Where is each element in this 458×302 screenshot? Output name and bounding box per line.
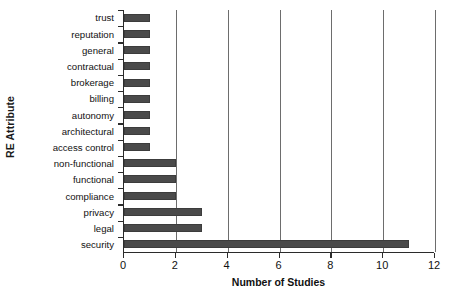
bar-row: [124, 204, 434, 220]
y-axis-tick-label: trust: [18, 10, 118, 26]
y-tick-cell: [117, 107, 123, 123]
y-axis-tick-label: autonomy: [18, 107, 118, 123]
y-axis-tick-labels: trustreputationgeneralcontractualbrokera…: [18, 10, 118, 253]
y-tick-cell: [117, 172, 123, 188]
y-axis-tick-label: reputation: [18, 26, 118, 42]
gridline: [435, 10, 436, 252]
bar-row: [124, 236, 434, 252]
plot-area: [123, 10, 434, 253]
y-tick-cell: [117, 10, 123, 26]
y-tick-cell: [117, 156, 123, 172]
bar-row: [124, 220, 434, 236]
bar-row: [124, 107, 434, 123]
y-axis-tick-label: brokerage: [18, 75, 118, 91]
y-tick-cell: [117, 75, 123, 91]
bar: [124, 208, 202, 216]
bar-row: [124, 10, 434, 26]
bar: [124, 192, 176, 200]
y-axis-tick-label: legal: [18, 221, 118, 237]
y-tick-cell: [117, 91, 123, 107]
bar: [124, 111, 150, 119]
bar-series: [124, 10, 434, 252]
x-tick-mark: [279, 253, 280, 258]
bar-row: [124, 26, 434, 42]
bar: [124, 62, 150, 70]
y-tick-cell: [117, 188, 123, 204]
x-axis-tick-label: 6: [259, 259, 299, 271]
x-tick-mark: [434, 253, 435, 258]
bar: [124, 14, 150, 22]
bar: [124, 95, 150, 103]
x-tick-mark: [227, 253, 228, 258]
bar: [124, 79, 150, 87]
bar: [124, 159, 176, 167]
y-axis-title-text: RE Attribute: [4, 95, 16, 157]
y-axis-tick-label: contractual: [18, 59, 118, 75]
y-tick-mark: [118, 156, 123, 157]
y-axis-tick-label: non-functional: [18, 156, 118, 172]
bar-row: [124, 139, 434, 155]
bar: [124, 46, 150, 54]
y-tick-cell: [117, 42, 123, 58]
y-tick-cell: [117, 237, 123, 253]
x-axis-tick-label: 0: [103, 259, 143, 271]
y-axis-tick-label: privacy: [18, 204, 118, 220]
bar-row: [124, 42, 434, 58]
bar: [124, 143, 150, 151]
y-tick-cell: [117, 123, 123, 139]
y-axis-tick-label: architectural: [18, 123, 118, 139]
bar-row: [124, 58, 434, 74]
y-tick-mark: [118, 42, 123, 43]
x-tick-mark: [382, 253, 383, 258]
y-axis-tick-label: access control: [18, 140, 118, 156]
bar: [124, 224, 202, 232]
y-tick-mark: [118, 237, 123, 238]
x-axis-tick-label: 8: [310, 259, 350, 271]
y-tick-mark: [118, 188, 123, 189]
bar-row: [124, 171, 434, 187]
bar-row: [124, 123, 434, 139]
y-tick-mark: [118, 26, 123, 27]
bar-row: [124, 155, 434, 171]
y-tick-mark: [118, 172, 123, 173]
y-tick-cell: [117, 221, 123, 237]
y-tick-mark: [118, 123, 123, 124]
y-axis-tick-label: compliance: [18, 188, 118, 204]
y-tick-mark: [118, 221, 123, 222]
y-tick-mark: [118, 140, 123, 141]
x-tick-mark: [175, 253, 176, 258]
x-tick-mark: [330, 253, 331, 258]
x-axis-tick-label: 4: [207, 259, 247, 271]
y-tick-cell: [117, 140, 123, 156]
x-axis-tick-label: 10: [362, 259, 402, 271]
y-tick-cell: [117, 204, 123, 220]
x-axis-tick-label: 12: [414, 259, 454, 271]
y-tick-cell: [117, 26, 123, 42]
y-axis-ticks: [117, 10, 123, 253]
y-tick-mark: [118, 107, 123, 108]
bar: [124, 175, 176, 183]
y-tick-mark: [118, 204, 123, 205]
x-axis-tick-label: 2: [155, 259, 195, 271]
y-tick-cell: [117, 59, 123, 75]
y-tick-mark: [118, 75, 123, 76]
bar-chart-figure: RE Attribute trustreputationgeneralcontr…: [0, 0, 458, 302]
y-axis-tick-label: functional: [18, 172, 118, 188]
y-tick-mark: [118, 59, 123, 60]
y-tick-mark: [118, 10, 123, 11]
y-tick-mark: [118, 91, 123, 92]
x-tick-mark: [123, 253, 124, 258]
bar-row: [124, 75, 434, 91]
bar: [124, 30, 150, 38]
y-axis-tick-label: security: [18, 237, 118, 253]
x-axis-title: Number of Studies: [123, 276, 434, 288]
bar: [124, 240, 409, 248]
bar-row: [124, 188, 434, 204]
y-axis-tick-label: general: [18, 42, 118, 58]
y-axis-title: RE Attribute: [0, 0, 20, 253]
bar-row: [124, 91, 434, 107]
y-axis-tick-label: billing: [18, 91, 118, 107]
bar: [124, 127, 150, 135]
